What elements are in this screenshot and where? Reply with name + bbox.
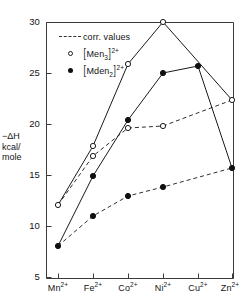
y-axis-title-line1: −ΔH	[2, 131, 44, 142]
y-tick-label-15: 15	[12, 169, 40, 180]
x-tick-label-zn: Zn2+	[210, 283, 249, 293]
legend-entry-mden2: [Mden2]2+	[57, 62, 177, 79]
y-tick-label-30: 30	[12, 16, 40, 27]
x-tick-charge: 2+	[95, 281, 103, 288]
legend-mden2-sup: 2+	[117, 64, 125, 71]
x-tick-element: Mn	[48, 283, 61, 293]
dashed-line-icon	[57, 36, 83, 38]
x-tick-charge: 2+	[164, 281, 172, 288]
legend-men3-sub: 3	[104, 53, 108, 60]
x-tick-element: Fe	[84, 283, 95, 293]
y-tick-label-10: 10	[12, 220, 40, 231]
y-axis-title-line2: kcal/	[2, 142, 44, 153]
x-tick-label-fe: Fe2+	[73, 283, 113, 293]
series-mden2-corr-line	[58, 168, 232, 246]
series-mden2-line	[58, 66, 232, 246]
y-tick-label-5: 5	[12, 271, 40, 282]
x-tick-element: Co	[118, 283, 130, 293]
chart-container: 30 25 20 15 10 5 −ΔH kcal/ mole Mn2+ Fe2…	[0, 0, 249, 308]
x-tick-element: Zn	[221, 283, 232, 293]
legend-entry-men3: [Men3]2+	[57, 45, 177, 62]
x-tick-label-mn: Mn2+	[38, 283, 78, 293]
y-tick-marks	[47, 23, 52, 278]
filled-circle-icon	[57, 68, 83, 73]
x-tick-element: Cu	[188, 283, 200, 293]
legend: corr. values [Men3]2+ [Mden2]2+	[57, 28, 177, 79]
y-tick-label-25: 25	[12, 67, 40, 78]
x-tick-charge: 2+	[130, 281, 138, 288]
y-tick-label-20: 20	[12, 118, 40, 129]
legend-label-mden2: [Mden2]2+	[83, 66, 124, 76]
legend-label-men3: [Men3]2+	[83, 49, 119, 59]
x-tick-marks	[59, 274, 233, 279]
legend-mden2-sub: 2	[109, 70, 113, 77]
x-tick-label-co: Co2+	[108, 283, 148, 293]
legend-entry-corr-values: corr. values	[57, 28, 177, 45]
legend-label-corr-values: corr. values	[83, 32, 130, 42]
legend-men3-sup: 2+	[111, 47, 119, 54]
y-axis-title: −ΔH kcal/ mole	[2, 131, 44, 163]
x-tick-element: Ni	[155, 283, 164, 293]
x-tick-label-ni: Ni2+	[143, 283, 183, 293]
y-axis-title-line3: mole	[2, 152, 44, 163]
series-mden2-markers	[55, 63, 234, 248]
x-tick-charge: 2+	[200, 281, 208, 288]
x-tick-charge: 2+	[61, 281, 69, 288]
open-circle-icon	[57, 51, 83, 56]
x-tick-charge: 2+	[232, 281, 240, 288]
series-men3-corr-line	[58, 100, 232, 205]
legend-mden2-prefix: Mden	[86, 66, 109, 76]
legend-men3-prefix: Men	[86, 49, 104, 59]
